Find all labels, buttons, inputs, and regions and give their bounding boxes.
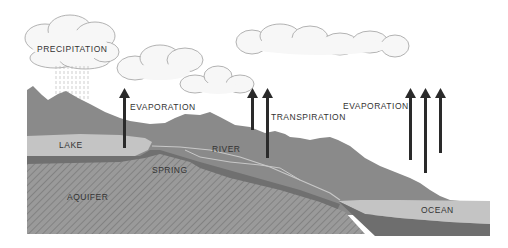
cloud-precipitation bbox=[25, 15, 119, 69]
label-spring: SPRING bbox=[152, 165, 188, 175]
label-transpiration: TRANSPIRATION bbox=[271, 112, 346, 122]
evaporation-ocean-arrow-icon bbox=[435, 88, 446, 153]
label-precipitation: PRECIPITATION bbox=[37, 44, 107, 54]
label-river: RIVER bbox=[212, 144, 240, 154]
cloud-middle bbox=[117, 45, 203, 80]
label-lake: LAKE bbox=[59, 140, 83, 150]
label-evaporation-ocean: EVAPORATION bbox=[343, 101, 409, 111]
label-ocean: OCEAN bbox=[421, 205, 454, 215]
transpiration-arrow-icon bbox=[247, 88, 258, 130]
lake bbox=[27, 134, 152, 156]
label-evaporation-lake: EVAPORATION bbox=[130, 102, 196, 112]
label-aquifer: AQUIFER bbox=[67, 192, 108, 202]
cloud-large-right bbox=[236, 24, 409, 57]
evaporation-ocean-arrow-icon bbox=[405, 88, 416, 160]
evaporation-ocean-arrow-icon bbox=[420, 88, 431, 173]
